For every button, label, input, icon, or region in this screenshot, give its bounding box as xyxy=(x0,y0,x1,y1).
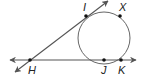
point-j xyxy=(102,58,106,62)
circle xyxy=(78,12,130,64)
label-x: X xyxy=(118,1,127,13)
label-k: K xyxy=(118,64,126,76)
point-i xyxy=(84,14,88,18)
points-group: IXHJK xyxy=(28,1,127,76)
point-x xyxy=(118,14,122,18)
geometry-diagram: IXHJK xyxy=(0,0,145,76)
label-h: H xyxy=(28,64,36,76)
diagram-canvas: IXHJK xyxy=(0,0,145,76)
label-j: J xyxy=(100,64,107,76)
point-k xyxy=(119,58,123,62)
label-i: I xyxy=(83,1,86,13)
point-h xyxy=(28,58,32,62)
